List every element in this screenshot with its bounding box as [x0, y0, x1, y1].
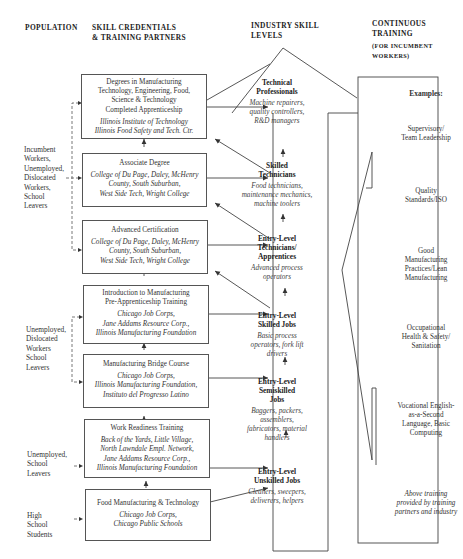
skill-level-title: Unskilled Jobs: [236, 476, 318, 485]
credential-partner: Chicago Job Corps,: [86, 310, 206, 319]
training-example-health-safety: Occupational Health & Safety/ Sanitation: [388, 324, 463, 351]
skill-level-desc: Baggers, packers,: [236, 407, 318, 416]
skill-level-desc: Machine repairers,: [236, 99, 318, 108]
credential-title: Science & Technology: [84, 96, 204, 105]
population-line: Unemployed,: [24, 164, 64, 173]
credential-partner: Illinois Manufacturing Foundation: [86, 329, 206, 338]
continuous-header-line1: CONTINUOUS: [372, 19, 433, 29]
skill-level-desc: operators: [236, 273, 318, 282]
training-example-quality: Quality Standards/ISO: [388, 187, 463, 205]
industry-header-line1: INDUSTRY SKILL: [251, 21, 319, 31]
training-example-line: Language, Basic: [388, 420, 463, 429]
credential-title: Degrees in Manufacturing: [84, 78, 204, 87]
credential-box-bridge-course: Manufacturing Bridge Course Chicago Job …: [83, 354, 209, 408]
population-line: Unemployed,: [26, 325, 66, 334]
credential-partner: County, South Suburban,: [85, 247, 205, 256]
training-example-line: Manufacturing: [388, 256, 463, 265]
credential-partner: Chicago Public Schools: [88, 520, 208, 529]
skill-level-title: Technicians/: [236, 243, 318, 252]
training-example-line: Vocational English-: [388, 402, 463, 411]
training-example-line: Manufacturing: [388, 274, 463, 283]
skill-level-desc: fabricators, material: [236, 425, 318, 434]
training-example-line: Supervisory/: [388, 125, 463, 134]
training-example-line: Practices/Lean: [388, 265, 463, 274]
credential-title: Manufacturing Bridge Course: [86, 360, 206, 369]
population-line: Students: [27, 530, 52, 539]
industry-header-line2: LEVELS: [251, 31, 319, 41]
population-line: Leavers: [26, 363, 66, 372]
skill-level-desc: machine toolers: [236, 200, 318, 209]
footnote-line: partners and industry: [388, 508, 463, 517]
continuous-training-heading: Examples:: [388, 89, 463, 98]
population-line: School: [27, 459, 67, 468]
credential-partner: Illinois Manufacturing Foundation,: [86, 381, 206, 390]
industry-header: INDUSTRY SKILL LEVELS: [251, 21, 319, 41]
continuous-training-footnote: Above training provided by training part…: [388, 490, 463, 517]
training-example-line: as-a-Second: [388, 411, 463, 420]
skill-level-desc: maintenance mechanics,: [236, 191, 318, 200]
training-example-line: Computing: [388, 429, 463, 438]
training-example-line: Team Leadership: [388, 134, 463, 143]
skill-level-desc: handlers: [236, 434, 318, 443]
population-line: Workers,: [24, 183, 64, 192]
training-example-line: Sanitation: [388, 342, 463, 351]
skill-level-title: Semiskilled: [236, 386, 318, 395]
skill-level-desc: Food technicians,: [236, 182, 318, 191]
training-example-line: Health & Safety/: [388, 333, 463, 342]
credential-partner: Chicago Job Corps,: [86, 372, 206, 381]
skill-level-title: Jobs: [236, 395, 318, 404]
footnote-line: provided by training: [388, 499, 463, 508]
credential-title: Food Manufacturing & Technology: [88, 499, 208, 508]
training-example-line: Quality: [388, 187, 463, 196]
footnote-line: Above training: [388, 490, 463, 499]
training-example-supervisory: Supervisory/ Team Leadership: [388, 125, 463, 143]
credential-partner: Jane Addams Resource Corp.,: [86, 320, 206, 329]
training-example-line: Good: [388, 247, 463, 256]
credential-partner: West Side Tech, Wright College: [85, 257, 205, 266]
population-line: Leavers: [27, 469, 67, 478]
skill-level-title: Skilled Jobs: [236, 320, 318, 329]
skill-level-title: Professionals: [236, 87, 318, 96]
credential-partner: Back of the Yards, Little Village,: [87, 436, 207, 445]
population-line: Leavers: [24, 201, 64, 210]
credential-partner: Illinois Food Safety and Tech. Ctr.: [84, 127, 204, 136]
credentials-header-line2: & TRAINING PARTNERS: [92, 33, 186, 43]
training-example-esl-computing: Vocational English- as-a-Second Language…: [388, 402, 463, 438]
credentials-header-line1: SKILL CREDENTIALS: [92, 23, 186, 33]
skill-level-desc: assemblers,: [236, 416, 318, 425]
credential-box-degrees: Degrees in Manufacturing Technology, Eng…: [81, 74, 207, 139]
training-example-line: Occupational: [388, 324, 463, 333]
skill-level-title: Skilled: [236, 161, 318, 170]
continuous-header: CONTINUOUS TRAINING (FOR INCUMBENT WORKE…: [372, 19, 433, 61]
population-group-4: High School Students: [27, 511, 52, 539]
credential-partner: Instituto del Progresso Latino: [86, 391, 206, 400]
skill-level-title: Technical: [236, 78, 318, 87]
credential-box-work-readiness: Work Readiness Training Back of the Yard…: [84, 419, 210, 478]
credential-partner: College of Du Page, Daley, McHenry: [85, 171, 204, 180]
skill-level-entry-unskilled: Entry-Level Unskilled Jobs Cleaners, swe…: [236, 467, 318, 506]
credential-partner: Jane Addams Resource Corp.,: [87, 455, 207, 464]
skill-level-entry-technicians: Entry-Level Technicians/ Apprentices Adv…: [236, 234, 318, 282]
population-group-1: Incumbent Workers, Unemployed, Dislocate…: [24, 145, 64, 211]
credential-partner: West Side Tech, Wright College: [85, 190, 204, 199]
population-line: Dislocated: [24, 173, 64, 182]
skill-level-desc: operators, fork lift: [236, 341, 318, 350]
population-line: School: [26, 353, 66, 362]
skill-level-title: Entry-Level: [236, 377, 318, 386]
credential-title: Introduction to Manufacturing: [86, 289, 206, 298]
credential-partner: College of Du Page, Daley, McHenry: [85, 238, 205, 247]
skill-level-title: Technicians: [236, 170, 318, 179]
credential-title: Completed Apprenticeship: [84, 106, 204, 115]
credential-box-pre-apprenticeship: Introduction to Manufacturing Pre-Appren…: [83, 285, 209, 344]
population-line: Dislocated: [26, 334, 66, 343]
continuous-header-sub1: (FOR INCUMBENT: [372, 41, 433, 51]
skill-level-skilled-technicians: Skilled Technicians Food technicians, ma…: [236, 161, 318, 209]
credential-title: Technology, Engineering, Food,: [84, 87, 204, 96]
skill-level-desc: quality controllers,: [236, 108, 318, 117]
credential-title: Associate Degree: [85, 159, 204, 168]
population-line: Unemployed,: [27, 450, 67, 459]
credential-box-associate: Associate Degree College of Du Page, Dal…: [82, 153, 207, 207]
population-line: Workers,: [24, 154, 64, 163]
skill-level-title: Apprentices: [236, 252, 318, 261]
skill-level-entry-skilled: Entry-Level Skilled Jobs Basic process o…: [236, 311, 318, 359]
